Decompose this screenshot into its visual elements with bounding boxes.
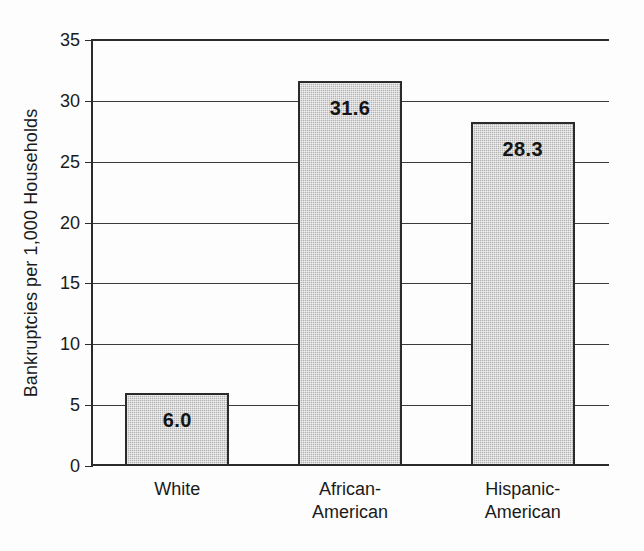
bar-chart-figure: Bankruptcies per 1,000 Households 051015… bbox=[0, 0, 644, 551]
y-tick-label-5: 5 bbox=[70, 395, 80, 416]
category-label-0: White bbox=[87, 478, 267, 501]
category-label-1: African- American bbox=[260, 478, 440, 524]
bar-1[interactable]: 31.6 bbox=[298, 81, 402, 466]
bar-value-label-0: 6.0 bbox=[127, 409, 227, 432]
gridline-35 bbox=[91, 39, 609, 41]
category-label-2: Hispanic- American bbox=[433, 478, 613, 524]
y-axis-spine bbox=[91, 40, 93, 467]
bar-value-label-2: 28.3 bbox=[473, 138, 573, 161]
y-tick-label-25: 25 bbox=[60, 151, 80, 172]
y-tick-label-20: 20 bbox=[60, 212, 80, 233]
y-tick-label-10: 10 bbox=[60, 334, 80, 355]
y-tick-label-30: 30 bbox=[60, 90, 80, 111]
bar-0[interactable]: 6.0 bbox=[125, 393, 229, 466]
x-axis-spine bbox=[91, 464, 609, 466]
bar-2[interactable]: 28.3 bbox=[471, 122, 575, 466]
y-axis-title: Bankruptcies per 1,000 Households bbox=[18, 40, 44, 466]
y-tick-label-15: 15 bbox=[60, 273, 80, 294]
plot-area: 05101520253035 6.031.628.3 bbox=[91, 40, 609, 466]
y-tick-label-35: 35 bbox=[60, 30, 80, 51]
y-tick-label-0: 0 bbox=[70, 456, 80, 477]
bar-value-label-1: 31.6 bbox=[300, 97, 400, 120]
